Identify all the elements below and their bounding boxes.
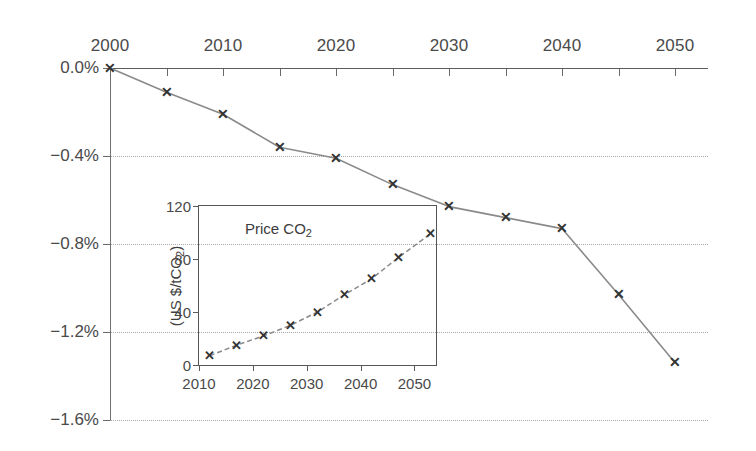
- inset-x-tick-mark: [253, 365, 254, 371]
- x-tick-label: 2040: [543, 36, 582, 56]
- x-tick-label: 2010: [204, 36, 243, 56]
- y-tick-label: −0.4%: [50, 146, 99, 166]
- inset-x-tick-label: 2030: [290, 375, 323, 392]
- inset-x-tick-mark: [199, 365, 200, 371]
- x-tick-label: 2000: [91, 36, 130, 56]
- inset-y-tick-label: 80: [174, 251, 191, 268]
- main-chart-plot-area: 200020102020203020402050 0.0%−0.4%−0.8%−…: [110, 68, 708, 420]
- y-tick-label: −1.6%: [50, 410, 99, 430]
- x-tick-label: 2020: [317, 36, 356, 56]
- y-tick-mark: [103, 68, 110, 69]
- inset-x-tick-mark: [414, 365, 415, 371]
- y-tick-label: 0.0%: [60, 58, 99, 78]
- y-tick-mark: [103, 420, 110, 421]
- y-tick-label: −1.2%: [50, 322, 99, 342]
- y-tick-mark: [103, 244, 110, 245]
- x-tick-label: 2030: [430, 36, 469, 56]
- figure-container: 200020102020203020402050 0.0%−0.4%−0.8%−…: [0, 0, 756, 451]
- inset-x-tick-mark: [361, 365, 362, 371]
- y-tick-label: −0.8%: [50, 234, 99, 254]
- inset-x-tick-mark: [307, 365, 308, 371]
- x-tick-label: 2050: [656, 36, 695, 56]
- inset-chart-series-line: [199, 206, 436, 365]
- gridline-y: [110, 420, 708, 421]
- inset-y-tick-label: 0: [183, 357, 191, 374]
- inset-x-tick-label: 2040: [344, 375, 377, 392]
- inset-y-tick-label: 120: [166, 198, 191, 215]
- inset-y-tick-label: 40: [174, 304, 191, 321]
- inset-x-tick-label: 2020: [236, 375, 269, 392]
- y-tick-mark: [103, 332, 110, 333]
- inset-chart-frame: Price CO2 (US $/tCO2) 04080120 201020202…: [198, 205, 437, 366]
- inset-x-tick-label: 2010: [182, 375, 215, 392]
- y-tick-mark: [103, 156, 110, 157]
- inset-x-tick-label: 2050: [398, 375, 431, 392]
